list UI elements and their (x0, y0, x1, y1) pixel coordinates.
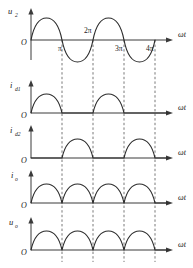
panel-id2: i d2 O ωt (10, 125, 187, 165)
panel-io-y-sublabel: o (15, 176, 18, 182)
panel-id2-y-label: i (10, 125, 13, 135)
tick-label-3pi: 3π (115, 44, 123, 53)
panel-id1-y-sublabel: d1 (15, 86, 21, 92)
dashed-gridlines (62, 40, 155, 262)
panel-id2-y-sublabel: d2 (15, 131, 21, 137)
panel-id1-x-label: ωt (178, 103, 187, 112)
panel-id2-curve (31, 139, 168, 158)
panel-u2-y-label: u (8, 6, 12, 16)
panel-id1-y-arrow-icon (28, 80, 33, 87)
panel-u2-y-sublabel: 2 (15, 12, 18, 18)
panel-io-curve (31, 184, 168, 203)
panel-u2-y-arrow-icon (28, 8, 33, 15)
panel-id2-x-label: ωt (178, 148, 187, 157)
tick-label-2pi: 2π (84, 26, 92, 35)
panel-uo-y-sublabel: o (15, 223, 18, 229)
panel-id1-origin-label: O (21, 111, 27, 120)
panel-uo: u o O ωt (9, 217, 187, 257)
panel-io-origin-label: O (21, 201, 27, 210)
panel-id1-curve (31, 94, 168, 113)
panel-uo-curve (31, 231, 168, 250)
panel-uo-origin-label: O (21, 248, 27, 257)
panel-io-y-arrow-icon (28, 170, 33, 177)
rectifier-waveform-figure: u 2 O ωt π 2π 3π 4π i d1 O ωt (0, 0, 193, 268)
tick-label-4pi: 4π (146, 44, 154, 53)
tick-label-pi: π (58, 44, 62, 53)
panel-io-x-label: ωt (178, 193, 187, 202)
panel-u2: u 2 O ωt π 2π 3π 4π (8, 6, 187, 62)
panel-io-y-label: i (11, 170, 14, 180)
panel-id2-y-arrow-icon (28, 125, 33, 132)
panel-id1-y-label: i (10, 80, 13, 90)
panel-u2-origin-label: O (21, 38, 27, 47)
panel-io: i o O ωt (11, 170, 187, 210)
panel-uo-y-label: u (9, 217, 13, 227)
panel-u2-x-label: ωt (178, 30, 187, 39)
panel-u2-x-arrow-icon (166, 37, 173, 42)
panel-uo-y-arrow-icon (28, 217, 33, 224)
panel-id1: i d1 O ωt (10, 80, 187, 120)
panel-id2-origin-label: O (21, 156, 27, 165)
panel-uo-x-label: ωt (178, 240, 187, 249)
